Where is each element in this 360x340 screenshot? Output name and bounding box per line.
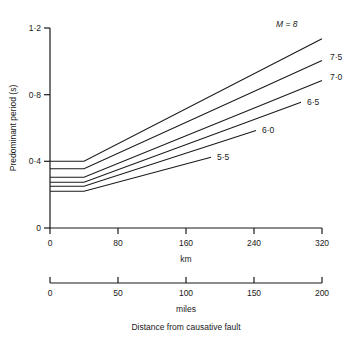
miles-axis [50, 277, 322, 283]
km-tick-label-320: 320 [315, 238, 329, 248]
y-axis-title: Predominant period (s) [8, 85, 18, 172]
y-tick-label-0-4: 0·4 [29, 156, 42, 166]
km-tick-label-160: 160 [179, 238, 193, 248]
curve-m-7-0 [50, 81, 322, 178]
miles-tick-label-0: 0 [48, 288, 53, 298]
y-tick-label-1-2: 1·2 [29, 23, 42, 33]
curve-m-7-5 [50, 61, 322, 169]
miles-tick-label-100: 100 [179, 288, 193, 298]
predominant-period-chart: 1·2 0·8 0·4 0 Predominant period (s) M =… [0, 0, 360, 340]
km-axis-title: km [180, 254, 191, 264]
curve-label-5-5: 5·5 [217, 152, 230, 162]
curve-m-8 [50, 39, 322, 162]
miles-tick-label-200: 200 [315, 288, 329, 298]
plot-axes [44, 28, 322, 234]
km-tick-label-0: 0 [48, 238, 53, 248]
curve-label-7-0: 7·0 [330, 72, 343, 82]
miles-tick-label-50: 50 [113, 288, 123, 298]
miles-axis-title: miles [176, 304, 196, 314]
curve-label-m-8: M = 8 [276, 19, 298, 29]
figure-caption: Distance from causative fault [131, 322, 241, 332]
y-tick-label-0-8: 0·8 [29, 90, 42, 100]
miles-tick-label-150: 150 [247, 288, 261, 298]
km-tick-label-240: 240 [247, 238, 261, 248]
curve-label-6-0: 6·0 [262, 125, 275, 135]
y-tick-label-0: 0 [36, 223, 41, 233]
curve-label-6-5: 6·5 [307, 97, 320, 107]
curve-label-7-5: 7·5 [330, 52, 343, 62]
curve-group [50, 39, 322, 192]
km-tick-label-80: 80 [113, 238, 123, 248]
